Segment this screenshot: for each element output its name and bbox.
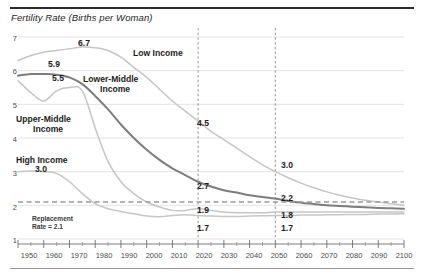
value-low-income-2020: 4.5	[197, 118, 209, 128]
value-upper-middle-peak: 5.5	[52, 73, 64, 83]
value-high-income-2020: 1.7	[197, 223, 209, 233]
value-low-income-2050: 3.0	[281, 160, 293, 170]
value-lower-middle-2020: 2.7	[197, 181, 209, 191]
x-tick-2020: 2020	[191, 251, 217, 260]
x-tick-2080: 2080	[341, 251, 367, 260]
bottom-divider-rule	[10, 268, 414, 269]
x-tick-2060: 2060	[291, 251, 317, 260]
x-tick-2070: 2070	[316, 251, 342, 260]
series-label-upper-middle-income-line1: Upper-Middle	[16, 114, 71, 124]
y-tick-4: 4	[3, 135, 17, 144]
replacement-rate-label-line1: Replacement	[32, 215, 73, 223]
x-tick-1960: 1960	[41, 251, 67, 260]
y-tick-6: 6	[3, 67, 17, 76]
y-tick-3: 3	[3, 169, 17, 178]
series-label-lower-middle-income-line2: Income	[100, 84, 130, 94]
replacement-rate-label-line2: Rate = 2.1	[32, 223, 63, 231]
value-lower-middle-1960: 5.9	[48, 59, 60, 69]
value-high-income-2050: 1.7	[281, 223, 293, 233]
x-tick-2000: 2000	[141, 251, 167, 260]
value-upper-middle-2050: 1.8	[281, 210, 293, 220]
x-tick-1950: 1950	[16, 251, 42, 260]
y-tick-7: 7	[3, 34, 17, 43]
x-tick-2040: 2040	[241, 251, 267, 260]
x-tick-2010: 2010	[166, 251, 192, 260]
x-tick-2030: 2030	[216, 251, 242, 260]
fertility-rate-chart-figure: Fertility Rate (Births per Woman) 7 6 5 …	[0, 0, 422, 277]
y-tick-1: 1	[3, 236, 17, 245]
x-tick-1980: 1980	[91, 251, 117, 260]
x-tick-2100: 2100	[391, 251, 417, 260]
x-tick-2050: 2050	[266, 251, 292, 260]
value-lower-middle-2050: 2.2	[281, 193, 293, 203]
x-tick-1970: 1970	[66, 251, 92, 260]
chart-plot-area	[0, 0, 422, 277]
value-upper-middle-2020: 1.9	[197, 205, 209, 215]
series-label-lower-middle-income-line1: Lower-Middle	[83, 74, 138, 84]
series-line-upper-middle-income	[18, 81, 404, 213]
series-label-low-income: Low Income	[133, 48, 183, 58]
value-high-income-start: 3.0	[35, 164, 47, 174]
x-tick-2090: 2090	[366, 251, 392, 260]
x-tick-1990: 1990	[116, 251, 142, 260]
series-label-upper-middle-income-line2: Income	[33, 124, 63, 134]
y-tick-5: 5	[3, 101, 17, 110]
y-tick-2: 2	[3, 203, 17, 212]
value-low-income-peak: 6.7	[78, 38, 90, 48]
